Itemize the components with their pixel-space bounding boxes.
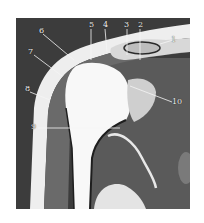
label-10: 10 (172, 98, 182, 106)
label-6: 6 (39, 27, 44, 35)
label-5: 5 (89, 21, 94, 29)
shoulder-mri-scan (16, 18, 190, 209)
label-8: 8 (25, 85, 30, 93)
label-2: 2 (138, 21, 143, 29)
label-3: 3 (124, 21, 129, 29)
label-7: 7 (28, 48, 33, 56)
label-9: 9 (31, 123, 36, 131)
mri-image-frame (16, 18, 190, 209)
label-1: 1 (171, 36, 176, 44)
label-4: 4 (103, 21, 108, 29)
